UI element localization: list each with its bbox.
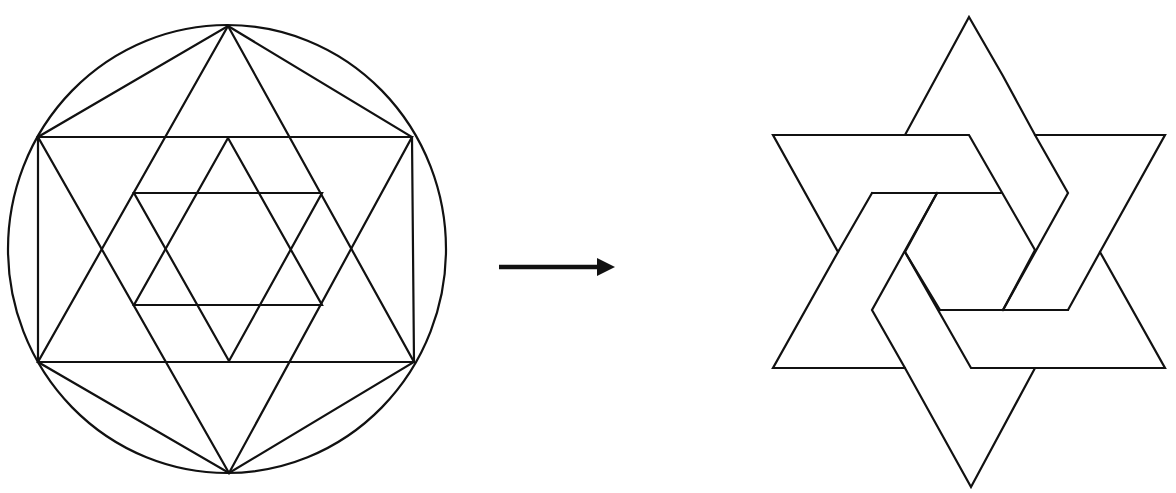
diagram-canvas [0,0,1176,493]
construction-figure [8,25,446,473]
right-arrow-icon [499,258,615,276]
inner-up-triangle [134,138,322,305]
interlaced-hexagram [773,17,1165,487]
outer-hexagon [38,26,414,473]
hexagram-outline [773,17,1165,487]
circumscribed-circle [8,25,446,473]
inner-down-triangle [134,193,322,361]
